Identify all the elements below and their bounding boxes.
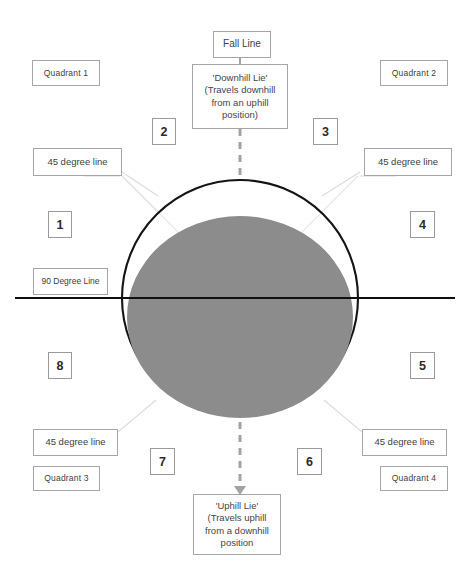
forty-five-degree-line-label-bottom-left: 45 degree line bbox=[33, 429, 118, 456]
forty-five-degree-line-label-top-left: 45 degree line bbox=[33, 148, 122, 176]
sector-number-4: 4 bbox=[410, 211, 435, 238]
quadrant-4-label: Quadrant 4 bbox=[380, 466, 448, 491]
leader-line-upperright-to-box bbox=[322, 172, 360, 196]
sector-number-2: 2 bbox=[152, 118, 176, 145]
sector-number-7: 7 bbox=[150, 448, 175, 475]
fall-line-label: Fall Line bbox=[213, 31, 271, 58]
quadrant-2-label: Quadrant 2 bbox=[380, 60, 448, 86]
sector-number-1: 1 bbox=[48, 211, 72, 238]
sector-number-8: 8 bbox=[48, 352, 72, 379]
downhill-lie-callout: 'Downhill Lie' (Travels downhill from an… bbox=[192, 64, 288, 129]
uphill-lie-callout: 'Uphill Lie' (Travels uphill from a down… bbox=[193, 494, 281, 555]
forty-five-degree-line-label-bottom-right: 45 degree line bbox=[362, 429, 447, 456]
quadrant-1-label: Quadrant 1 bbox=[32, 60, 100, 86]
leader-line-upperleft-to-box bbox=[122, 172, 158, 196]
sector-number-6: 6 bbox=[297, 448, 322, 475]
leader-line-lower-right-to-box bbox=[324, 400, 362, 432]
sector-number-5: 5 bbox=[410, 352, 435, 379]
sector-number-3: 3 bbox=[313, 118, 338, 145]
quadrant-3-label: Quadrant 3 bbox=[33, 466, 100, 491]
diagram-canvas: Fall Line 'Downhill Lie' (Travels downhi… bbox=[0, 0, 472, 585]
ninety-degree-line-label: 90 Degree Line bbox=[33, 268, 108, 295]
forty-five-degree-line-label-top-right: 45 degree line bbox=[364, 148, 452, 176]
leader-line-lower-left-to-box bbox=[118, 400, 156, 432]
